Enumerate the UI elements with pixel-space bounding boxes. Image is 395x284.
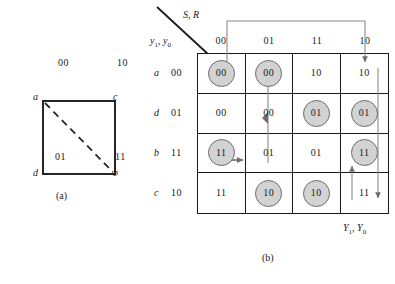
- cell-c-01[interactable]: 10: [246, 173, 294, 213]
- cell-b-00[interactable]: 11: [198, 134, 246, 174]
- edge-a-b-dashed: [42, 100, 116, 175]
- cell-value: 01: [263, 148, 274, 158]
- cell-a-11[interactable]: 10: [293, 54, 341, 94]
- cell-b-10[interactable]: 11: [341, 134, 389, 174]
- cell-d-00[interactable]: 00: [198, 94, 246, 134]
- cell-value: 01: [351, 100, 378, 127]
- row-code-d: 01: [171, 108, 182, 118]
- cell-d-01[interactable]: 00: [246, 94, 294, 134]
- column-header-01: 01: [245, 36, 293, 46]
- flow-table-grid: 00 00 10 10 00 00 01 01 11 01 01 11 11 1…: [197, 53, 389, 214]
- cell-c-00[interactable]: 11: [198, 173, 246, 213]
- caption-part-b: (b): [262, 252, 274, 263]
- cell-value: 00: [255, 60, 282, 87]
- cell-value: 11: [216, 188, 227, 198]
- cell-c-10[interactable]: 11: [341, 173, 389, 213]
- output-axis-label: Y1, Y0: [343, 222, 366, 236]
- row-header-d: d 01: [152, 93, 195, 133]
- cell-value: 00: [263, 108, 274, 118]
- figure-part-b: S, R y1, y0 Y1, Y0 00 01 11 10 a 00 d 01…: [150, 0, 395, 284]
- cell-b-01[interactable]: 01: [246, 134, 294, 174]
- cell-value: 11: [351, 139, 378, 166]
- row-code-c: 10: [171, 188, 182, 198]
- row-state-b: b: [152, 148, 171, 158]
- edge-label-right: 10: [117, 58, 128, 68]
- node-label-c: c: [113, 92, 117, 102]
- node-label-b: b: [113, 168, 118, 178]
- column-header-11: 11: [293, 36, 341, 46]
- row-header-c: c 10: [152, 173, 195, 213]
- row-axis-label: y1, y0: [150, 35, 171, 49]
- cell-d-11[interactable]: 01: [293, 94, 341, 134]
- cell-a-10[interactable]: 10: [341, 54, 389, 94]
- row-header-a: a 00: [152, 53, 195, 93]
- row-code-b: 11: [171, 148, 182, 158]
- cell-value: 11: [359, 188, 370, 198]
- cell-a-00[interactable]: 00: [198, 54, 246, 94]
- row-header-b: b 11: [152, 133, 195, 173]
- cell-b-11[interactable]: 01: [293, 134, 341, 174]
- cell-c-11[interactable]: 10: [293, 173, 341, 213]
- column-header-00: 00: [197, 36, 245, 46]
- cell-value: 01: [311, 148, 322, 158]
- cell-value: 10: [255, 180, 282, 207]
- column-axis-label: S, R: [183, 9, 199, 20]
- column-header-10: 10: [341, 36, 389, 46]
- cell-value: 11: [208, 139, 235, 166]
- row-state-d: d: [152, 108, 171, 118]
- cell-value: 10: [311, 68, 322, 78]
- cell-value: 00: [208, 60, 235, 87]
- node-label-d: d: [33, 168, 38, 178]
- row-code-a: 00: [171, 68, 182, 78]
- cell-value: 01: [303, 100, 330, 127]
- figure-part-a: a c d b 00 10 01 11 (a): [0, 0, 165, 284]
- cell-value: 00: [216, 108, 227, 118]
- edge-label-bottom: 11: [115, 152, 126, 162]
- node-label-a: a: [33, 92, 38, 102]
- cell-a-01[interactable]: 00: [246, 54, 294, 94]
- row-state-a: a: [152, 68, 171, 78]
- row-state-c: c: [152, 188, 171, 198]
- cell-d-10[interactable]: 01: [341, 94, 389, 134]
- cell-value: 10: [359, 68, 370, 78]
- edge-label-left: 01: [55, 152, 66, 162]
- caption-part-a: (a): [56, 190, 67, 201]
- edge-label-top: 00: [58, 58, 69, 68]
- state-transition-square: [42, 100, 116, 175]
- cell-value: 10: [303, 180, 330, 207]
